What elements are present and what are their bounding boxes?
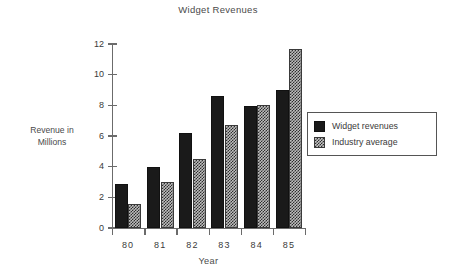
chart-title-text: Widget Revenues [178,4,257,15]
x-axis-label: Year [112,256,305,266]
y-axis-label: Revenue in Millions [12,124,92,148]
y-tick-label-2: 2 [82,193,104,202]
y-tick-label-0: 0 [82,224,104,233]
x-tick-label-81: 81 [142,240,178,250]
bar-industry-average-84 [257,105,270,228]
y-tick-label-8: 8 [82,101,104,110]
bar-widget-revenues-84 [244,106,257,228]
x-tick-83 [209,228,210,235]
bar-widget-revenues-81 [147,167,160,228]
x-tick-81 [144,228,145,235]
y-tick-10 [108,74,117,75]
legend-item-industry-average: Industry average [314,134,430,150]
y-axis-label-line2: Millions [12,136,92,148]
bar-widget-revenues-85 [276,90,289,228]
y-tick-label-12: 12 [82,40,104,49]
x-tick-label-83: 83 [207,240,243,250]
x-tick-82 [176,228,177,235]
y-axis-label-line1: Revenue in [12,124,92,136]
y-tick-label-6: 6 [82,132,104,141]
x-tick-85 [273,228,274,235]
legend-item-widget-revenues: Widget revenues [314,118,430,134]
bar-industry-average-83 [225,125,238,228]
chart-legend: Widget revenues Industry average [307,112,437,156]
x-tick-label-82: 82 [174,240,210,250]
x-tick-label-84: 84 [239,240,275,250]
plot-area: 121086420 808182838485 Year [112,44,305,228]
x-tick-label-80: 80 [110,240,146,250]
x-tick-end [305,228,306,235]
y-tick-4 [108,166,117,167]
legend-swatch-industry-average [314,137,325,148]
bar-widget-revenues-82 [179,133,192,228]
bar-industry-average-81 [161,182,174,228]
y-tick-6 [108,135,117,136]
y-tick-label-10: 10 [82,70,104,79]
bar-widget-revenues-83 [211,96,224,228]
bar-industry-average-82 [193,159,206,228]
legend-label-widget-revenues: Widget revenues [332,121,398,131]
widget-revenues-bar-chart: Widget Revenues Revenue in Millions 1210… [0,0,454,275]
legend-swatch-widget-revenues [314,121,325,132]
x-tick-label-85: 85 [271,240,307,250]
x-tick-84 [241,228,242,235]
bar-industry-average-80 [128,204,141,228]
y-tick-label-4: 4 [82,162,104,171]
y-tick-8 [108,105,117,106]
bar-widget-revenues-80 [115,184,128,228]
chart-title: Widget Revenues [0,4,454,15]
y-tick-12 [108,43,117,44]
bar-industry-average-85 [289,49,302,228]
x-tick-80 [112,228,113,235]
legend-label-industry-average: Industry average [332,137,398,147]
